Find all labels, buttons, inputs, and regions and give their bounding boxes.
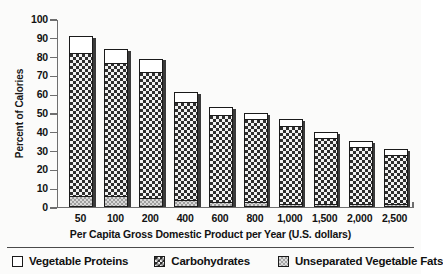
bar-shadow (198, 94, 201, 207)
bar-segment-fats (69, 196, 93, 207)
bar-shadow (93, 38, 96, 207)
bar-200 (139, 58, 163, 207)
y-axis-tick-label: 20 (18, 163, 48, 175)
y-axis-tick-label: 80 (18, 51, 48, 63)
bar-shadow (268, 115, 271, 207)
bar-segment-carbohydrates (209, 115, 233, 203)
y-axis-tick (50, 113, 57, 114)
bar-segment-carbohydrates (139, 72, 163, 199)
bar-segment-proteins (139, 59, 163, 73)
legend-item-unseparated-vegetable-fats: Unseparated Vegetable Fats (278, 255, 443, 267)
bar-shadow (128, 51, 131, 207)
bar-segment-fats (104, 196, 128, 207)
y-axis-tick (50, 151, 57, 152)
bar-shadow (303, 121, 306, 207)
plot-area (57, 20, 414, 208)
y-axis-tick (50, 132, 57, 133)
y-axis-tick (50, 170, 57, 171)
bar-400 (174, 92, 198, 207)
y-axis-tick (50, 38, 57, 39)
y-axis-tick-label: 60 (18, 88, 48, 100)
bar-segment-proteins (314, 132, 338, 139)
bar-1500 (314, 132, 338, 207)
y-axis-tick-label: 100 (18, 13, 48, 25)
bar-segment-carbohydrates (69, 53, 93, 197)
bar-segment-proteins (349, 141, 373, 148)
y-axis-tick-label: 10 (18, 182, 48, 194)
bar-segment-proteins (279, 119, 303, 128)
bar-segment-proteins (69, 36, 93, 54)
legend-label: Vegetable Proteins (29, 255, 128, 267)
legend-label: Unseparated Vegetable Fats (295, 255, 443, 267)
bar-segment-proteins (209, 107, 233, 116)
y-axis-tick-label: 50 (18, 107, 48, 119)
legend-item-vegetable-proteins: Vegetable Proteins (12, 255, 128, 267)
bar-segment-carbohydrates (349, 147, 373, 205)
bar-segment-carbohydrates (279, 126, 303, 204)
bar-2000 (349, 141, 373, 207)
y-axis-tick-label: 0 (18, 201, 48, 213)
y-axis-tick-label: 90 (18, 32, 48, 44)
bar-shadow (338, 134, 341, 207)
bar-segment-carbohydrates (314, 137, 338, 204)
legend-swatch-icon-carb (154, 256, 165, 267)
y-axis-tick (50, 76, 57, 77)
bar-800 (244, 113, 268, 207)
bar-segment-carbohydrates (104, 62, 128, 197)
bar-1000 (279, 119, 303, 207)
bar-shadow (373, 143, 376, 207)
y-axis-tick-label: 30 (18, 145, 48, 157)
bar-2500 (384, 149, 408, 207)
x-axis-title: Per Capita Gross Domestic Product per Ye… (0, 228, 421, 240)
bar-100 (104, 49, 128, 207)
bar-segment-carbohydrates (384, 154, 408, 204)
y-axis-tick (50, 57, 57, 58)
bar-shadow (163, 60, 166, 207)
y-axis-tick (50, 19, 57, 20)
bar-segment-carbohydrates (174, 102, 198, 201)
y-axis-tick-label: 70 (18, 69, 48, 81)
y-axis-tick (50, 95, 57, 96)
bar-shadow (408, 151, 411, 207)
chart-legend: Vegetable Proteins Carbohydrates Unsepar… (7, 252, 414, 270)
x-axis-tick-label: 2,500 (371, 212, 419, 224)
bar-600 (209, 107, 233, 207)
bar-segment-carbohydrates (244, 119, 268, 203)
legend-label: Carbohydrates (171, 255, 250, 267)
legend-swatch-icon-protein (12, 256, 23, 267)
y-axis-tick-label: 40 (18, 126, 48, 138)
legend-item-carbohydrates: Carbohydrates (154, 255, 250, 267)
bar-shadow (233, 109, 236, 207)
bar-segment-proteins (244, 113, 268, 120)
legend-swatch-icon-fat (278, 256, 289, 267)
plot-right-edge (412, 202, 414, 207)
bar-segment-fats (139, 198, 163, 207)
y-axis-tick (50, 189, 57, 190)
legend-divider (7, 247, 414, 248)
bar-segment-proteins (104, 49, 128, 63)
bar-50 (69, 36, 93, 207)
bar-segment-proteins (384, 149, 408, 156)
y-axis-tick (50, 207, 57, 208)
bar-segment-proteins (174, 92, 198, 103)
